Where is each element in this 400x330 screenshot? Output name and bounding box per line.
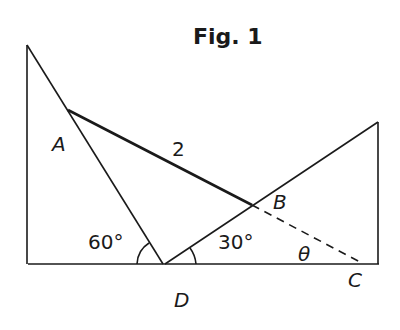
point-label-A: A — [52, 134, 66, 154]
figure-title: Fig. 1 — [193, 26, 263, 48]
angle-label-30: 30° — [218, 232, 253, 252]
point-label-C: C — [348, 270, 362, 290]
geometry-diagram — [0, 0, 400, 330]
line-D-B-right — [165, 122, 378, 264]
segment-AB — [68, 110, 252, 205]
angle-label-theta: θ — [298, 244, 310, 264]
point-label-B: B — [273, 192, 287, 212]
angle-label-60: 60° — [88, 232, 123, 252]
point-label-D: D — [174, 290, 189, 310]
angle-arc-30 — [190, 248, 196, 264]
length-label-AB: 2 — [172, 139, 185, 159]
angle-arc-60 — [137, 243, 149, 264]
